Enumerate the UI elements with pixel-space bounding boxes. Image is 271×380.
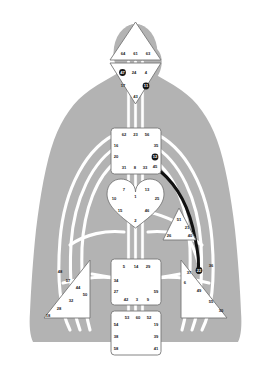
gate-47[interactable]: 47 (120, 70, 125, 75)
gate-19[interactable]: 19 (154, 322, 159, 327)
gate-52[interactable]: 52 (147, 315, 152, 320)
gate-20[interactable]: 20 (114, 154, 119, 159)
gate-55[interactable]: 55 (209, 299, 214, 304)
gate-24[interactable]: 24 (132, 70, 137, 75)
gate-25[interactable]: 25 (155, 196, 160, 201)
gate-49[interactable]: 49 (197, 288, 202, 293)
gate-32[interactable]: 32 (69, 298, 74, 303)
gate-30[interactable]: 30 (219, 308, 224, 313)
gate-23[interactable]: 23 (133, 132, 138, 137)
gate-62[interactable]: 62 (122, 132, 127, 137)
gate-29[interactable]: 29 (146, 264, 151, 269)
gate-21[interactable]: 21 (185, 225, 190, 230)
gate-14[interactable]: 14 (134, 264, 139, 269)
gate-15[interactable]: 15 (118, 208, 123, 213)
gate-31[interactable]: 31 (122, 165, 127, 170)
gate-61[interactable]: 61 (133, 51, 138, 56)
gate-39[interactable]: 39 (154, 334, 159, 339)
bodygraph-canvas: 64 61 63 47 24 4 17 11 43 62 23 56 16 35… (0, 0, 271, 380)
gate-46[interactable]: 46 (145, 208, 150, 213)
gate-26[interactable]: 26 (167, 233, 172, 238)
gate-42[interactable]: 42 (124, 297, 129, 302)
bodygraph-chart: 64 61 63 47 24 4 17 11 43 62 23 56 16 35… (0, 0, 271, 380)
gate-37[interactable]: 37 (187, 270, 192, 275)
gate-35[interactable]: 35 (154, 143, 159, 148)
gate-16[interactable]: 16 (114, 143, 119, 148)
gate-40[interactable]: 40 (188, 233, 193, 238)
gate-45[interactable]: 45 (153, 164, 158, 169)
gate-48[interactable]: 48 (58, 269, 63, 274)
gate-12[interactable]: 12 (153, 154, 158, 159)
gate-28[interactable]: 28 (57, 306, 62, 311)
gate-56[interactable]: 56 (145, 132, 150, 137)
gate-33[interactable]: 33 (143, 165, 148, 170)
gate-43[interactable]: 43 (133, 94, 138, 99)
gate-64[interactable]: 64 (121, 51, 126, 56)
center-root[interactable]: 53 60 52 54 19 38 39 58 41 (111, 311, 161, 355)
gate-41[interactable]: 41 (154, 346, 159, 351)
gate-11[interactable]: 11 (144, 83, 149, 88)
gate-51[interactable]: 51 (177, 217, 182, 222)
gate-60[interactable]: 60 (136, 315, 141, 320)
gate-34[interactable]: 34 (114, 278, 119, 283)
center-throat[interactable]: 62 23 56 16 35 20 12 45 31 8 33 (111, 128, 161, 174)
gate-36[interactable]: 36 (209, 263, 214, 268)
gate-22[interactable]: 22 (197, 268, 202, 273)
gate-59[interactable]: 59 (154, 289, 159, 294)
gate-38[interactable]: 38 (114, 334, 119, 339)
gate-50[interactable]: 50 (83, 292, 88, 297)
gate-54[interactable]: 54 (114, 322, 119, 327)
gate-57[interactable]: 57 (66, 278, 71, 283)
gate-53[interactable]: 53 (125, 315, 130, 320)
gate-13[interactable]: 13 (145, 187, 150, 192)
gate-17[interactable]: 17 (121, 83, 126, 88)
gate-18[interactable]: 18 (46, 313, 51, 318)
gate-58[interactable]: 58 (114, 346, 119, 351)
gate-63[interactable]: 63 (146, 51, 151, 56)
gate-44[interactable]: 44 (76, 285, 81, 290)
gate-27[interactable]: 27 (114, 289, 119, 294)
gate-10[interactable]: 10 (112, 196, 117, 201)
center-sacral[interactable]: 5 14 29 34 27 59 42 3 9 (111, 259, 161, 305)
